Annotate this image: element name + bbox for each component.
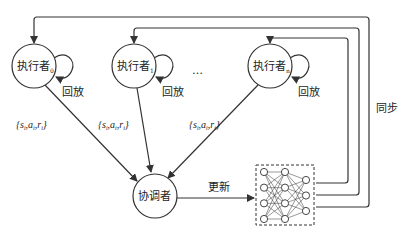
network-neuron [281,200,288,207]
network-neuron [281,184,288,191]
ellipsis: … [192,64,203,77]
update-label: 更新 [208,180,230,194]
arrow-actor-0-to-coordinator [45,85,137,181]
svg-text:{si,ai,ri}: {si,ai,ri} [98,119,129,131]
svg-text:{si,ai,ri}: {si,ai,ri} [16,119,47,131]
replay-loop-icon [154,55,173,78]
actor-n-label: 执行者n [253,59,290,74]
actor-1-replay-label: 回放 [162,85,184,99]
network-neuron [260,215,267,222]
sync-connections [34,17,369,207]
experience-arrows [45,85,258,181]
actor-1: 执行者1 回放 [112,44,184,99]
network-neuron [302,207,309,214]
neural-network-icon [256,165,314,225]
actor-0-replay-label: 回放 [62,85,84,99]
sync-label: 同步 [376,102,398,115]
arrow-actor-1-to-coordinator [137,88,151,172]
transition-label-n: {si,ai,ri} [189,119,220,131]
network-neuron [260,168,267,175]
sync-line-actor-0 [34,17,369,207]
coordinator-label: 协调者 [138,189,171,203]
actor-0-label: 执行者0 [17,59,54,74]
svg-text:{si,ai,ri}: {si,ai,ri} [189,119,220,131]
network-neuron [302,176,309,183]
actor-0: 执行者0 回放 [12,44,84,99]
replay-loop-icon [290,55,309,78]
network-neuron [281,168,288,175]
actor-1-label: 执行者1 [117,59,154,74]
transition-label-0: {si,ai,ri} [16,119,47,131]
replay-loop-icon [54,55,73,78]
network-neuron [281,215,288,222]
coordinator: 协调者 [133,174,177,218]
sync-line-actor-1 [134,28,359,195]
network-neuron [260,184,267,191]
actor-n-replay-label: 回放 [298,85,320,99]
actor-n: 执行者n 回放 [248,44,320,99]
architecture-diagram: 执行者0 回放 执行者1 回放 … 执行者n 回放 {si,ai,ri} {si… [0,0,406,240]
transition-label-1: {si,ai,ri} [98,119,129,131]
network-neuron [260,200,267,207]
network-neuron [302,192,309,199]
